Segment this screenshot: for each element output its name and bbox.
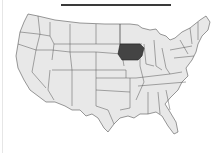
us-map [10, 10, 215, 140]
caption [40, 146, 180, 153]
map-figure [0, 0, 221, 153]
state-iowa[interactable] [118, 44, 144, 60]
title-rule [61, 4, 171, 6]
us-outline [16, 14, 210, 134]
left-divider [2, 0, 3, 153]
